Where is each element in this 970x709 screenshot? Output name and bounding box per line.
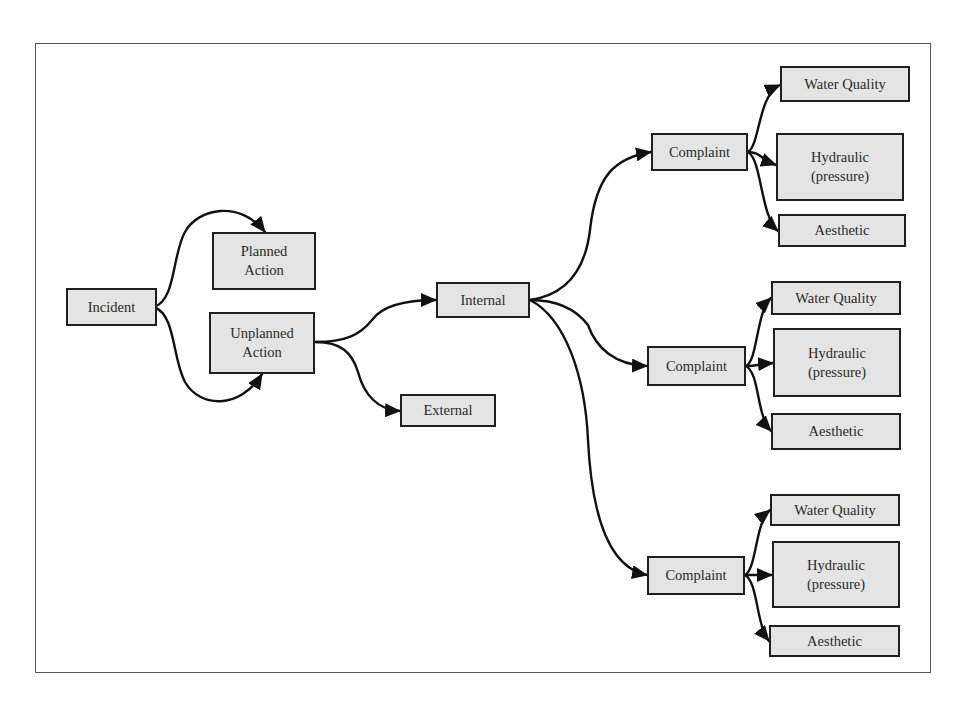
node-planned-action: Planned Action — [212, 232, 316, 290]
node-complaint-2: Complaint — [647, 346, 746, 386]
edge-internal-complaint2 — [530, 300, 647, 366]
node-aesthetic-3: Aesthetic — [769, 625, 900, 657]
node-complaint-1: Complaint — [651, 133, 748, 171]
edge-c3-aes3 — [745, 575, 769, 641]
node-water-quality-1: Water Quality — [780, 66, 910, 102]
edge-unplanned-internal — [316, 300, 436, 342]
edge-unplanned-external — [316, 342, 400, 411]
node-hydraulic-3: Hydraulic (pressure) — [772, 541, 900, 608]
node-external: External — [400, 394, 496, 427]
node-aesthetic-1: Aesthetic — [778, 214, 906, 247]
node-hydraulic-2: Hydraulic (pressure) — [773, 328, 901, 397]
edge-internal-complaint1 — [530, 152, 651, 300]
node-water-quality-3: Water Quality — [770, 494, 900, 526]
node-water-quality-2: Water Quality — [771, 281, 901, 315]
node-incident: Incident — [66, 288, 157, 326]
node-unplanned-action: Unplanned Action — [209, 312, 315, 374]
edge-c2-aes2 — [746, 366, 771, 431]
node-complaint-3: Complaint — [647, 556, 745, 595]
node-hydraulic-1: Hydraulic (pressure) — [776, 133, 904, 201]
edge-c3-wq3 — [745, 510, 770, 575]
edge-internal-complaint3 — [530, 300, 647, 575]
node-internal: Internal — [436, 282, 530, 318]
node-aesthetic-2: Aesthetic — [771, 413, 901, 450]
edge-c2-wq2 — [746, 298, 771, 366]
